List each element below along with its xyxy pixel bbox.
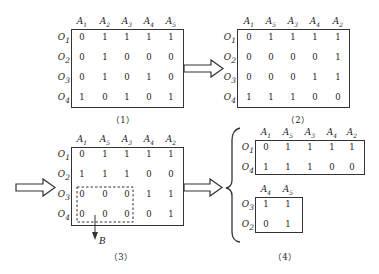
- arrow-right-icon: [184, 60, 223, 77]
- arrow-right-icon: [16, 179, 55, 196]
- connectors: [0, 0, 379, 274]
- arrow-right-icon: [184, 179, 222, 196]
- brace-icon: [226, 128, 240, 242]
- arrow-down-icon: [92, 232, 98, 240]
- dashed-selection: [77, 187, 133, 222]
